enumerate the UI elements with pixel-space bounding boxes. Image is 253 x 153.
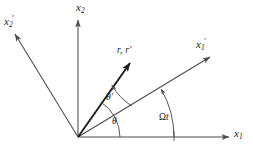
axis-label-x1-prime: x1′ — [196, 37, 206, 51]
diagram-canvas — [0, 0, 253, 153]
angle-label-omega-t: Ωt — [159, 113, 169, 123]
r-vector-line — [78, 63, 130, 137]
angle-label-theta-prime: θ′ — [106, 93, 113, 103]
x2-prime-axis-line — [15, 34, 78, 137]
rotating-frame-diagram: x2 x1 x1′ x2′ r, r′ θ θ′ Ωt — [0, 0, 253, 153]
x1-prime-axis-line — [78, 57, 210, 137]
theta-prime-arc — [112, 85, 132, 106]
vector-label-r: r, r′ — [117, 46, 132, 56]
axis-label-x2-prime: x2′ — [4, 14, 14, 28]
axis-label-x2: x2 — [76, 2, 85, 15]
theta-arc — [101, 102, 121, 137]
angle-label-theta: θ — [112, 117, 117, 127]
axis-label-x1: x1 — [234, 128, 243, 141]
